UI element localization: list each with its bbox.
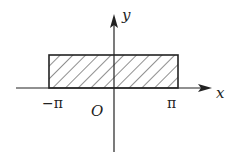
origin-label: O bbox=[91, 102, 103, 120]
tick-neg-pi: −π bbox=[42, 95, 63, 111]
tick-pi: π bbox=[167, 95, 176, 111]
x-axis-label: x bbox=[216, 84, 225, 102]
coordinate-diagram: x y O −π π bbox=[0, 0, 237, 162]
y-axis-label: y bbox=[121, 6, 131, 24]
